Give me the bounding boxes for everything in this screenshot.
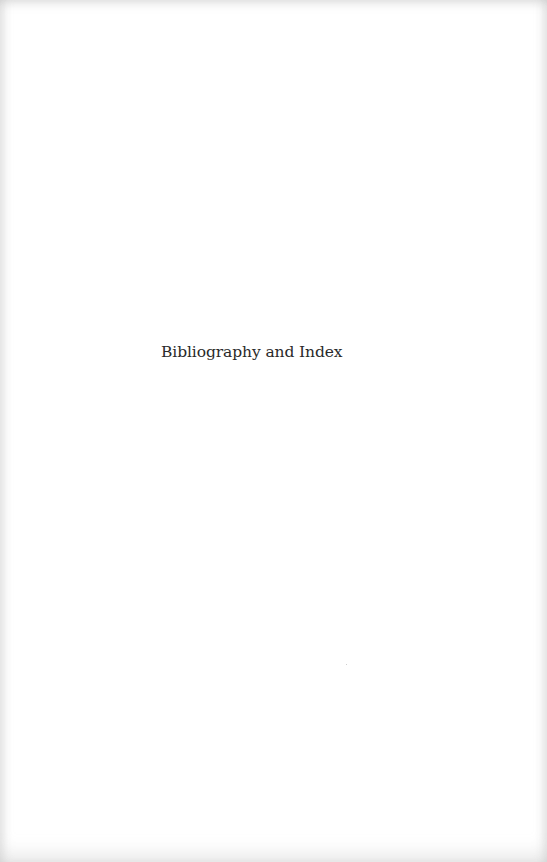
book-page: Bibliography and Index (0, 0, 547, 862)
section-title: Bibliography and Index (161, 343, 343, 361)
scan-speck (346, 664, 347, 665)
scan-edge-shadow (0, 0, 547, 862)
